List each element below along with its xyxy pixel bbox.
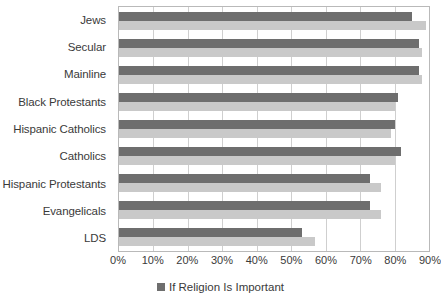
bar — [119, 21, 426, 30]
gridline — [429, 7, 430, 251]
category-label: LDS — [0, 225, 112, 252]
category-label: Evangelicals — [0, 197, 112, 224]
bar — [119, 75, 422, 84]
bar-group — [119, 224, 429, 251]
x-tick-label: 40% — [246, 254, 268, 266]
x-tick-label: 90% — [419, 254, 441, 266]
plot-area — [118, 6, 430, 252]
bar-group — [119, 88, 429, 115]
bar — [119, 174, 370, 183]
bar-chart: Jews Secular Mainline Black Protestants … — [0, 0, 441, 302]
bar — [119, 210, 381, 219]
bar — [119, 48, 422, 57]
x-tick-label: 60% — [315, 254, 337, 266]
bar — [119, 93, 398, 102]
bar — [119, 12, 412, 21]
legend-swatch-icon — [157, 283, 165, 291]
bars-layer — [119, 7, 429, 251]
bar — [119, 201, 370, 210]
bar-group — [119, 170, 429, 197]
x-tick-label: 0% — [110, 254, 126, 266]
bar — [119, 120, 395, 129]
bar-group — [119, 115, 429, 142]
legend-entry[interactable]: If Religion Is Important — [157, 281, 284, 293]
category-label: Hispanic Catholics — [0, 115, 112, 142]
bar-group — [119, 197, 429, 224]
bar-group — [119, 61, 429, 88]
category-label: Mainline — [0, 61, 112, 88]
bar — [119, 39, 419, 48]
x-tick-label: 80% — [384, 254, 406, 266]
x-tick-label: 70% — [350, 254, 372, 266]
bar — [119, 156, 395, 165]
category-label: Hispanic Protestants — [0, 170, 112, 197]
bar-group — [119, 143, 429, 170]
category-axis: Jews Secular Mainline Black Protestants … — [0, 6, 112, 252]
bar — [119, 129, 391, 138]
x-tick-label: 50% — [280, 254, 302, 266]
value-axis: 0%10%20%30%40%50%60%70%80%90% — [118, 254, 430, 272]
bar-group — [119, 7, 429, 34]
bar — [119, 102, 395, 111]
category-label: Jews — [0, 6, 112, 33]
bar — [119, 66, 419, 75]
bar — [119, 183, 381, 192]
bar — [119, 228, 302, 237]
bar — [119, 147, 401, 156]
x-tick-label: 10% — [142, 254, 164, 266]
chart-legend: If Religion Is Important — [0, 281, 441, 293]
category-label: Secular — [0, 33, 112, 60]
x-tick-label: 20% — [176, 254, 198, 266]
category-label: Black Protestants — [0, 88, 112, 115]
category-label: Catholics — [0, 143, 112, 170]
x-tick-label: 30% — [211, 254, 233, 266]
bar-group — [119, 34, 429, 61]
bar — [119, 237, 315, 246]
legend-label: If Religion Is Important — [169, 281, 284, 293]
